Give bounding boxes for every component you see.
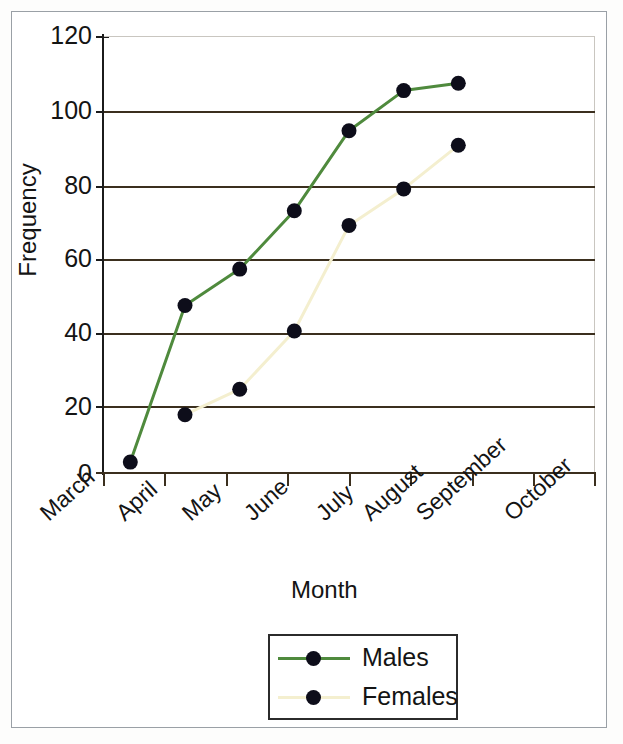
legend-item-females[interactable]: Females [270, 678, 460, 718]
legend-item-males[interactable]: Males [270, 639, 460, 679]
y-axis-line [102, 34, 104, 475]
x-tick-mark-4 [349, 473, 351, 486]
legend-label-females: Females [362, 684, 458, 709]
x-tick-mark-8 [594, 473, 596, 486]
y-tick-label-100: 100 [50, 98, 92, 123]
y-tick-label-40: 40 [64, 320, 92, 345]
x-tick-mark-0 [103, 473, 105, 486]
dot-marker-icon [306, 651, 321, 666]
y-tick-label-20: 20 [64, 394, 92, 419]
legend: Males Females [268, 634, 458, 720]
y-tick-label-120: 120 [50, 23, 92, 48]
y-tick-label-60: 60 [64, 246, 92, 271]
chart-screenshot: Frequency 120 100 80 60 40 20 0 March Ap… [0, 0, 623, 744]
plot-area [103, 36, 595, 473]
x-tick-mark-1 [164, 473, 166, 486]
y-axis-title: Frequency [16, 140, 40, 300]
plot-top-border [103, 36, 595, 37]
x-tick-mark-3 [287, 473, 289, 486]
gridline-40 [103, 333, 595, 335]
legend-label-males: Males [362, 645, 429, 670]
x-tick-mark-2 [226, 473, 228, 486]
gridline-20 [103, 406, 595, 408]
y-tick-label-80: 80 [64, 173, 92, 198]
dot-marker-icon [306, 690, 321, 705]
gridline-80 [103, 186, 595, 188]
x-axis-title: Month [291, 578, 358, 602]
gridline-60 [103, 259, 595, 261]
x-axis-line [96, 472, 596, 474]
gridline-100 [103, 111, 595, 113]
